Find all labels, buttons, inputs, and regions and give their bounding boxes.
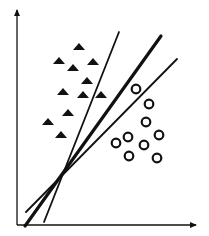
- triangle-point-icon: [81, 77, 93, 84]
- circle-point-icon: [140, 141, 149, 150]
- circle-point-icon: [132, 85, 141, 94]
- triangle-point-icon: [55, 131, 67, 138]
- triangle-point-icon: [77, 91, 89, 98]
- triangle-point-icon: [42, 118, 54, 125]
- separator-line-steep: [44, 32, 119, 222]
- circle-point-icon: [153, 154, 162, 163]
- circle-point-icon: [124, 133, 133, 142]
- triangle-point-icon: [87, 58, 99, 65]
- circle-point-icon: [125, 152, 134, 161]
- triangle-point-icon: [53, 57, 65, 64]
- svm-hyperplane-diagram: [0, 0, 209, 236]
- triangle-point-icon: [62, 109, 74, 116]
- triangle-point-icon: [73, 43, 85, 50]
- triangle-point-icon: [57, 88, 69, 95]
- circle-point-icon: [145, 100, 154, 109]
- circle-point-icon: [155, 131, 164, 140]
- triangle-point-icon: [67, 64, 79, 71]
- separating-lines: [25, 32, 177, 226]
- circle-point-icon: [112, 139, 121, 148]
- triangle-point-icon: [95, 91, 107, 98]
- circle-point-icon: [142, 118, 151, 127]
